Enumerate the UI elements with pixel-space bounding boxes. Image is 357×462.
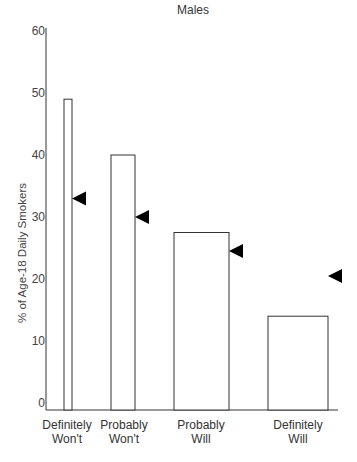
plot-area	[0, 0, 357, 462]
triangle-marker-icon	[328, 269, 342, 283]
triangle-marker-icon	[135, 210, 149, 224]
bar	[111, 155, 135, 410]
bars	[64, 99, 328, 410]
triangle-marker-icon	[229, 244, 243, 258]
bar	[64, 99, 72, 410]
bar	[174, 233, 229, 411]
triangle-marker-icon	[72, 191, 86, 205]
bar	[268, 316, 328, 410]
